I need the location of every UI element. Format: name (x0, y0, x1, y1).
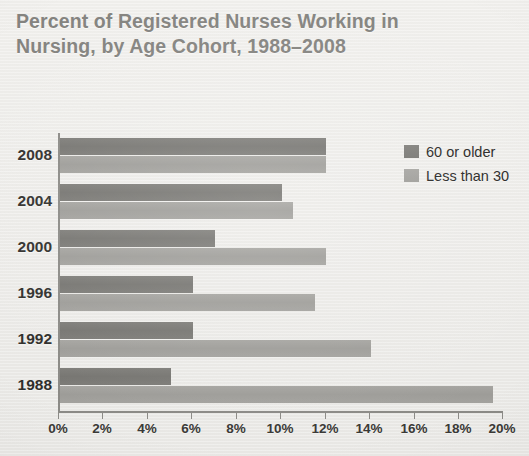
x-tick-label-14: 14% (355, 421, 382, 436)
y-label-1996: 1996 (8, 284, 52, 302)
x-tick-18 (458, 411, 459, 419)
bar-2000-less-than-30 (60, 248, 326, 265)
legend-item-60-or-older: 60 or older (404, 141, 509, 162)
plot-area: 0% 2% 4% 6% 8% 10% 12% 14% 16% 18% 20% 2… (0, 0, 529, 456)
x-tick-label-12: 12% (311, 421, 338, 436)
x-tick-6 (191, 411, 192, 419)
x-tick-2 (102, 411, 103, 419)
x-tick-0 (58, 411, 59, 419)
bar-1996-60-or-older (60, 276, 193, 293)
x-tick-label-16: 16% (400, 421, 427, 436)
x-tick-label-2: 2% (92, 421, 112, 436)
bar-2008-60-or-older (60, 138, 326, 155)
bar-2000-60-or-older (60, 230, 215, 247)
x-tick-label-8: 8% (226, 421, 246, 436)
x-tick-16 (414, 411, 415, 419)
legend-label-60-or-older: 60 or older (426, 144, 495, 160)
legend-swatch-60-or-older-icon (404, 145, 419, 158)
x-tick-label-18: 18% (444, 421, 471, 436)
y-label-2000: 2000 (8, 238, 52, 256)
chart-page: Percent of Registered Nurses Working in … (0, 0, 529, 456)
x-tick-label-4: 4% (137, 421, 157, 436)
bar-1988-less-than-30 (60, 386, 493, 403)
x-tick-label-6: 6% (181, 421, 201, 436)
bar-2004-60-or-older (60, 184, 282, 201)
x-tick-label-20: 20% (488, 421, 515, 436)
chart-legend: 60 or older Less than 30 (404, 141, 509, 189)
x-tick-20 (502, 411, 503, 419)
x-tick-12 (325, 411, 326, 419)
x-tick-label-10: 10% (266, 421, 293, 436)
y-label-2008: 2008 (8, 146, 52, 164)
y-label-1988: 1988 (8, 376, 52, 394)
bar-2008-less-than-30 (60, 156, 326, 173)
legend-label-less-than-30: Less than 30 (426, 168, 509, 184)
x-tick-14 (369, 411, 370, 419)
legend-swatch-less-than-30-icon (404, 169, 419, 182)
bar-2004-less-than-30 (60, 202, 293, 219)
bar-1992-less-than-30 (60, 340, 371, 357)
x-tick-4 (147, 411, 148, 419)
legend-item-less-than-30: Less than 30 (404, 165, 509, 186)
y-label-1992: 1992 (8, 330, 52, 348)
x-tick-8 (236, 411, 237, 419)
x-tick-10 (280, 411, 281, 419)
bar-1988-60-or-older (60, 368, 171, 385)
x-tick-label-0: 0% (48, 421, 68, 436)
bar-1992-60-or-older (60, 322, 193, 339)
bar-1996-less-than-30 (60, 294, 315, 311)
y-label-2004: 2004 (8, 192, 52, 210)
